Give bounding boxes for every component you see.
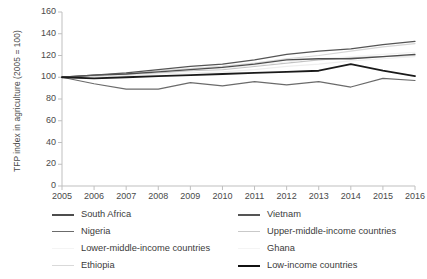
x-tick-label: 2008: [141, 192, 175, 201]
legend-swatch-icon: [238, 214, 260, 216]
legend-swatch-icon: [238, 231, 260, 232]
legend-item-label: South Africa: [81, 210, 131, 219]
legend-item[interactable]: Upper-middle-income countries: [238, 223, 396, 240]
x-axis-tick-labels: 2005200620072008200920102011201220132014…: [62, 186, 415, 202]
x-tick-label: 2014: [334, 192, 368, 201]
legend-item[interactable]: South Africa: [52, 206, 131, 223]
series-line: [62, 77, 415, 89]
legend-item[interactable]: Ethiopia: [52, 257, 115, 274]
x-tick-label: 2005: [45, 192, 79, 201]
legend-swatch-icon: [52, 265, 74, 266]
x-tick-label: 2016: [398, 192, 427, 201]
legend-swatch-icon: [52, 248, 74, 249]
x-tick-label: 2011: [238, 192, 272, 201]
legend-item-label: Nigeria: [81, 227, 110, 236]
y-axis-ticks: [58, 12, 62, 186]
x-tick-label: 2006: [77, 192, 111, 201]
plot-area: TFP index in agriculture (2005 = 100) 02…: [0, 0, 427, 200]
x-tick-label: 2015: [366, 192, 400, 201]
x-tick-label: 2012: [270, 192, 304, 201]
legend-item[interactable]: Nigeria: [52, 223, 110, 240]
x-tick-label: 2013: [302, 192, 336, 201]
series-lines: [62, 41, 415, 89]
legend-item[interactable]: Low-income countries: [238, 257, 357, 274]
series-line: [62, 41, 415, 77]
chart-canvas: [0, 0, 427, 200]
legend-item[interactable]: Ghana: [238, 240, 295, 257]
x-tick-label: 2010: [205, 192, 239, 201]
x-tick-label: 2009: [173, 192, 207, 201]
legend-item-label: Upper-middle-income countries: [267, 227, 396, 236]
legend-item[interactable]: Lower-middle-income countries: [52, 240, 210, 257]
legend-item[interactable]: Vietnam: [238, 206, 301, 223]
legend-item-label: Vietnam: [267, 210, 301, 219]
legend-item-label: Low-income countries: [267, 261, 357, 270]
axis-lines: [62, 12, 415, 186]
legend-item-label: Ethiopia: [81, 261, 115, 270]
legend-item-label: Lower-middle-income countries: [81, 244, 210, 253]
legend-item-label: Ghana: [267, 244, 295, 253]
legend-swatch-icon: [238, 248, 260, 249]
chart-legend: South AfricaVietnamNigeriaUpper-middle-i…: [0, 206, 427, 279]
legend-swatch-icon: [52, 231, 74, 232]
legend-swatch-icon: [238, 265, 260, 267]
tfp-index-line-chart: TFP index in agriculture (2005 = 100) 02…: [0, 0, 427, 279]
x-tick-label: 2007: [109, 192, 143, 201]
legend-swatch-icon: [52, 214, 74, 216]
